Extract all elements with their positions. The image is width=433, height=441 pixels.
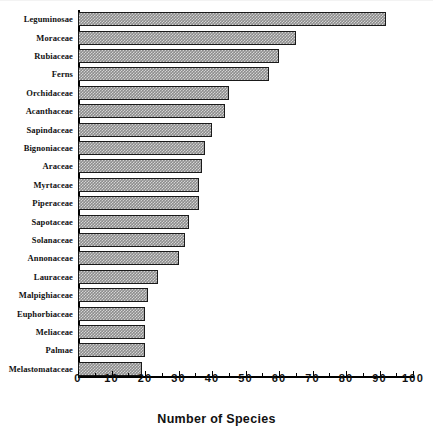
bar [78,123,212,137]
bar-row: Sapotaceae [78,212,413,230]
image-top-edge [0,0,433,1]
category-label: Moraceae [36,33,73,43]
category-label: Malpighiaceae [19,290,73,300]
x-tick-label: 20 [138,372,153,384]
bar [78,343,145,357]
plot-area: LeguminosaeMoraceaeRubiaceaeFernsOrchida… [78,10,413,378]
category-label: Melastomataceae [9,364,73,374]
category-label: Piperaceae [32,198,73,208]
category-label: Solanaceae [32,235,73,245]
x-tick-label: 30 [171,372,186,384]
category-label: Euphorbiaceae [17,309,73,319]
bar-row: Rubiaceae [78,47,413,65]
x-tick-label: 70 [305,372,320,384]
category-label: Sapotaceae [31,217,73,227]
category-label: Rubiaceae [34,51,73,61]
bar [78,49,279,63]
x-tick-minor [95,373,96,378]
bar-row: Bignoniaceae [78,139,413,157]
bar-row: Annonaceae [78,249,413,267]
category-label: Araceae [43,161,73,171]
bar [78,31,296,45]
bar-row: Acanthaceae [78,102,413,120]
x-tick-label: 80 [339,372,354,384]
x-tick-label: 60 [272,372,287,384]
category-label: Sapindaceae [27,125,73,135]
bar [78,86,229,100]
bar-row: Piperaceae [78,194,413,212]
bar-row: Solanaceae [78,231,413,249]
bar-row: Ferns [78,65,413,83]
x-tick-label: 10 [104,372,119,384]
x-tick-minor [128,373,129,378]
bar [78,251,179,265]
x-tick-minor [363,373,364,378]
bar [78,141,205,155]
bar [78,196,199,210]
x-tick-minor [396,373,397,378]
bar-row: Leguminosae [78,10,413,28]
category-label: Bignoniaceae [24,143,73,153]
x-tick-label: 90 [372,372,387,384]
category-label: Palmae [45,345,73,355]
x-tick-label: 100 [402,372,424,384]
x-tick-label: 50 [238,372,253,384]
bar-row: Malpighiaceae [78,286,413,304]
category-label: Orchidaceae [26,88,73,98]
bar [78,325,145,339]
chart-figure: LeguminosaeMoraceaeRubiaceaeFernsOrchida… [0,0,433,441]
bar-row: Moraceae [78,28,413,46]
bar [78,270,158,284]
category-label: Myrtaceae [33,180,73,190]
bar [78,178,199,192]
bar [78,288,148,302]
bar [78,215,189,229]
bar [78,307,145,321]
category-label: Annonaceae [28,253,73,263]
bar [78,67,269,81]
x-tick-minor [195,373,196,378]
bar [78,104,225,118]
x-tick-minor [162,373,163,378]
category-label: Leguminosae [24,14,73,24]
x-tick-minor [329,373,330,378]
bar [78,12,386,26]
bar [78,159,202,173]
category-label: Ferns [52,69,73,79]
bar-row: Meliaceae [78,323,413,341]
bar [78,233,185,247]
x-tick-minor [296,373,297,378]
bar-row: Araceae [78,157,413,175]
category-label: Meliaceae [36,327,73,337]
x-tick-minor [229,373,230,378]
x-tick-label: 0 [74,372,81,384]
category-label: Acanthaceae [26,106,73,116]
x-axis-title: Number of Species [0,412,433,426]
bar-row: Sapindaceae [78,120,413,138]
bar-row: Euphorbiaceae [78,304,413,322]
bar-row: Palmae [78,341,413,359]
bar-row: Orchidaceae [78,84,413,102]
category-label: Lauraceae [34,272,73,282]
x-tick-label: 40 [205,372,220,384]
x-tick-minor [262,373,263,378]
bar-row: Myrtaceae [78,176,413,194]
bar-row: Lauraceae [78,268,413,286]
bar-series: LeguminosaeMoraceaeRubiaceaeFernsOrchida… [78,10,413,378]
